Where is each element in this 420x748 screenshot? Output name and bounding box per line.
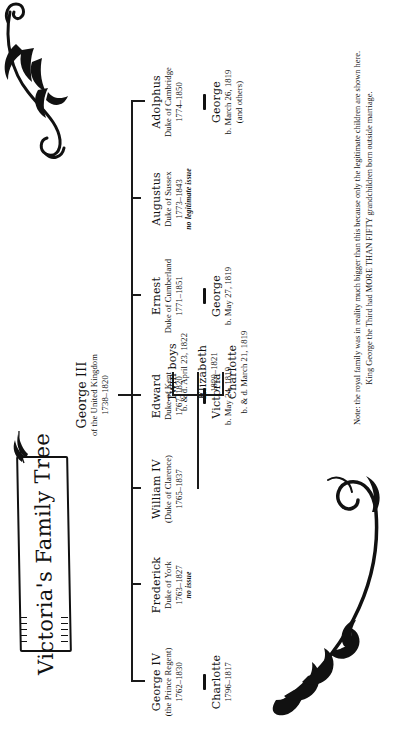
leafy-swash-flourish-icon <box>266 468 416 718</box>
node-line1: 1796–1817 <box>223 622 234 742</box>
leafy-vine-flourish-icon <box>2 0 122 162</box>
connector-adolphus-child <box>203 94 206 110</box>
node-line1: b. May 27, 1819 <box>223 236 234 356</box>
page-title: Victoria's Family Tree <box>16 456 72 652</box>
node-line2: 1738–1820 <box>100 320 111 470</box>
node-name: Twin boys <box>166 312 179 432</box>
node-george-iii: George III of the United Kingdom 1738–18… <box>74 320 110 470</box>
node-name: George <box>210 236 223 356</box>
node-line2: 1774–1850 <box>174 42 185 162</box>
title-banner: Victoria's Family Tree <box>18 456 70 652</box>
node-note: no legitimate issue <box>184 139 195 259</box>
node-name: Adolphus <box>150 42 163 162</box>
node-adolphus: Adolphus Duke of Cambridge 1774–1850 <box>150 42 184 162</box>
connector-drop-child-7 <box>131 100 143 102</box>
node-line1: b. & d. March 21, 1819 <box>239 312 250 432</box>
family-tree-canvas: Victoria's Family Tree George III of the… <box>0 0 420 748</box>
node-name: Charlotte <box>210 622 223 742</box>
connector-root-drop <box>118 394 132 396</box>
node-line2: (and others) <box>234 42 245 162</box>
node-twin-boys: Twin boys b. & d. April 23, 1822 <box>166 312 190 432</box>
footnote-line2: King George the Third had MORE THAN FIFT… <box>364 28 376 448</box>
banner-leaf-flourish-icon <box>6 430 32 464</box>
node-line1: of the United Kingdom <box>89 320 100 470</box>
connector-george-iv-child <box>203 674 206 690</box>
connector-drop-child-2 <box>131 583 141 585</box>
node-charlotte-1796: Charlotte 1796–1817 <box>210 622 234 742</box>
footnote: Note: the royal family was in reality mu… <box>352 28 376 448</box>
footnote-line1: Note: the royal family was in reality mu… <box>352 28 364 448</box>
node-line1: Duke of Cambridge <box>163 42 174 162</box>
connector-drop-child-1 <box>131 680 143 682</box>
node-george-cumberland: George b. May 27, 1819 <box>210 236 234 356</box>
node-name: George III <box>74 320 89 470</box>
node-line1: b. & d. April 23, 1822 <box>179 312 190 432</box>
connector-drop-child-3 <box>131 487 141 489</box>
node-line1: b. March 26, 1819 <box>223 42 234 162</box>
connector-drop-child-4 <box>131 394 141 396</box>
connector-sibling-bar <box>131 100 133 682</box>
connector-ernest-child <box>203 288 206 304</box>
connector-edward-child <box>203 388 206 404</box>
connector-drop-child-6 <box>131 197 141 199</box>
node-george-cambridge: George b. March 26, 1819 (and others) <box>210 42 244 162</box>
connector-drop-child-5 <box>131 294 141 296</box>
node-name: George <box>210 42 223 162</box>
node-note: no issue <box>184 525 195 645</box>
node-name: Elizabeth <box>196 312 209 432</box>
